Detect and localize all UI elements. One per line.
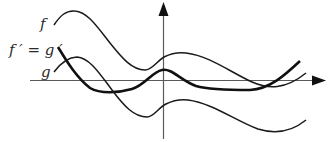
label-g: g [41, 63, 51, 81]
curve-g [54, 57, 306, 132]
label-f: f [39, 15, 48, 33]
function-graph: f f ′ = g ′ g [0, 0, 332, 142]
y-axis-arrow-icon [159, 2, 169, 16]
x-axis-arrow-icon [312, 76, 326, 86]
label-fprime-eq-gprime: f ′ = g ′ [8, 41, 63, 59]
curve-f [54, 11, 306, 87]
